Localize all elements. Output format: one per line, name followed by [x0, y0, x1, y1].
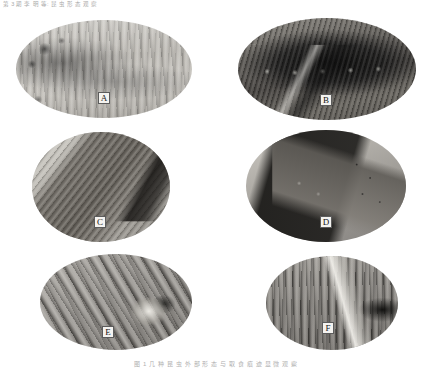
panel-label-f: F	[322, 322, 334, 334]
figure-panel-c: C	[32, 132, 170, 242]
panel-label-e: E	[102, 326, 114, 338]
panel-label-c: C	[94, 216, 106, 228]
micrograph-image-e	[40, 254, 192, 350]
figure-caption: 图 1 几 种 昆 虫 外 部 形 态 与 取 食 痕 迹 显 微 观 察	[0, 359, 432, 368]
panel-label-b: B	[320, 94, 332, 106]
figure-panel-a: A	[16, 20, 192, 118]
texture-layer	[40, 254, 192, 350]
figure-panel-f: F	[266, 256, 398, 350]
texture-layer	[48, 132, 170, 221]
micrograph-image-f	[266, 256, 398, 350]
figure-panel-e: E	[40, 254, 192, 350]
texture-layer	[238, 45, 378, 120]
figure-panel-b: B	[238, 18, 416, 120]
panel-label-a: A	[98, 92, 110, 104]
panel-label-d: D	[320, 216, 332, 228]
texture-layer	[266, 256, 398, 350]
figure-panel-grid: A B C D E	[0, 14, 432, 352]
running-head: 第 3 期 李 明 等: 昆 虫 形 态 观 察	[3, 0, 98, 8]
figure-panel-d: D	[246, 130, 406, 242]
